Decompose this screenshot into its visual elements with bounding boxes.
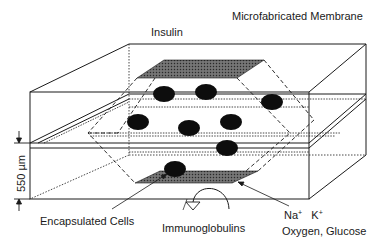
potassium-charge: + [319,209,323,216]
immunoglobulins-label: Immunoglobulins [162,223,245,234]
oxygen-glucose-label: Oxygen, Glucose [282,226,366,237]
encapsulated-cells [127,84,283,177]
membrane-layers [30,94,366,152]
bottom-bracket-tick [183,199,187,210]
membrane-label: Microfabricated Membrane [232,11,363,22]
cell [164,161,186,177]
cell [127,114,149,130]
dimension-label: 550 µm [15,155,27,192]
potassium-label: K [311,209,318,221]
cell [195,84,217,100]
encapsulated-cells-label: Encapsulated Cells [40,216,134,227]
cell [178,120,200,136]
cell [220,114,242,130]
sodium-charge: + [298,209,302,216]
chamber-outline [88,60,314,183]
cell [216,140,238,156]
ions-label: Na+ K+ [284,210,323,221]
cell [261,94,283,110]
sodium-label: Na [284,209,298,221]
top-membrane-window [137,60,264,78]
cell [153,86,175,102]
insulin-label: Insulin [151,27,183,38]
bottom-membrane-window [135,171,258,183]
